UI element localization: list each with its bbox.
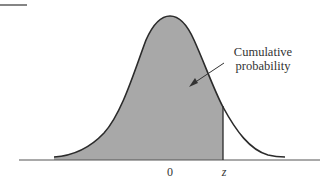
mean-label: 0 (167, 165, 173, 179)
annotation-line-2: probability (236, 59, 292, 73)
normal-curve-figure: Cumulative probability 0 z (0, 0, 336, 183)
cumulative-shaded-area (54, 16, 223, 160)
z-label: z (221, 165, 227, 179)
annotation-line-1: Cumulative (234, 45, 293, 59)
